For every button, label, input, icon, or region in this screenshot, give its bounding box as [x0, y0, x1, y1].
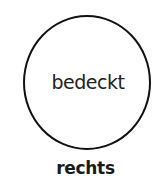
circle-shape: bedeckt — [23, 15, 151, 150]
circle-label: bedeckt — [52, 71, 125, 93]
caption-label: rechts — [0, 158, 165, 178]
